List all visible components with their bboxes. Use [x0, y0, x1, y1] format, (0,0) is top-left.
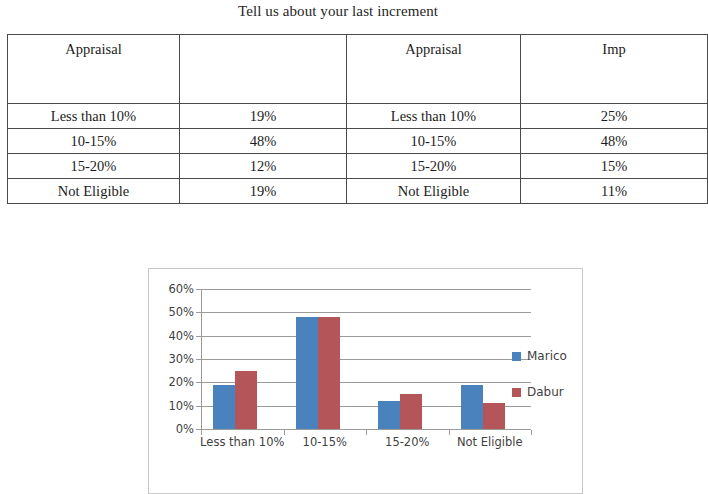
bar-dabur-0[interactable]: [235, 371, 257, 429]
table-cell: Not Eligible: [8, 179, 180, 204]
x-axis-category-label: 15-20%: [362, 436, 452, 450]
table-row: Not Eligible19%Not Eligible11%: [8, 179, 708, 204]
table-cell: 15%: [521, 154, 708, 179]
table-cell: Not Eligible: [347, 179, 521, 204]
bar-marico-1[interactable]: [296, 317, 318, 429]
y-axis-tick: [196, 312, 201, 313]
bar-marico-2[interactable]: [378, 401, 400, 429]
legend-swatch-icon: [512, 352, 521, 361]
y-axis-tick-label: 30%: [150, 352, 194, 366]
table-header-cell: Appraisal: [347, 35, 521, 104]
x-axis-tick: [366, 430, 367, 435]
table-cell: 19%: [180, 104, 347, 129]
table-cell: 15-20%: [347, 154, 521, 179]
table-cell: 10-15%: [8, 129, 180, 154]
y-axis-tick-label: 60%: [150, 282, 194, 296]
legend-swatch-icon: [512, 388, 521, 397]
y-axis-labels: 0%10%20%30%40%50%60%: [149, 289, 194, 430]
bar-group: [201, 289, 284, 429]
table-row: Less than 10%19%Less than 10%25%: [8, 104, 708, 129]
y-axis-tick: [196, 336, 201, 337]
survey-results-table: AppraisalAppraisalImpLess than 10%19%Les…: [7, 34, 708, 204]
bar-dabur-3[interactable]: [483, 403, 505, 429]
page-title: Tell us about your last increment: [0, 3, 676, 20]
table-body: AppraisalAppraisalImpLess than 10%19%Les…: [8, 35, 708, 204]
legend-label: Marico: [527, 349, 567, 363]
table-header-cell: Appraisal: [8, 35, 180, 104]
bar-group: [366, 289, 449, 429]
bar-group: [284, 289, 367, 429]
y-axis-tick-label: 20%: [150, 375, 194, 389]
x-axis-tick: [531, 430, 532, 435]
x-axis-category-label: Less than 10%: [197, 436, 287, 450]
table-row: 15-20%12%15-20%15%: [8, 154, 708, 179]
y-axis-tick-label: 40%: [150, 329, 194, 343]
x-axis-category-label: 10-15%: [280, 436, 370, 450]
bar-dabur-1[interactable]: [318, 317, 340, 429]
y-axis-tick-label: 0%: [150, 422, 194, 436]
legend-label: Dabur: [527, 385, 564, 399]
x-axis-tick: [284, 430, 285, 435]
chart-legend: MaricoDabur: [512, 347, 582, 419]
table-cell: Less than 10%: [347, 104, 521, 129]
table-header-row: AppraisalAppraisalImp: [8, 35, 708, 104]
table-cell: 19%: [180, 179, 347, 204]
y-axis-tick: [196, 289, 201, 290]
bar-dabur-2[interactable]: [400, 394, 422, 429]
table-cell: 12%: [180, 154, 347, 179]
table-cell: 48%: [521, 129, 708, 154]
table-cell: Less than 10%: [8, 104, 180, 129]
y-axis-tick-label: 10%: [150, 399, 194, 413]
table-header-cell: [180, 35, 347, 104]
table-header-cell: Imp: [521, 35, 708, 104]
increment-bar-chart: 0%10%20%30%40%50%60% MaricoDabur Less th…: [148, 268, 583, 494]
y-axis-tick: [196, 359, 201, 360]
y-axis-tick: [196, 382, 201, 383]
table-row: 10-15%48%10-15%48%: [8, 129, 708, 154]
table-cell: 11%: [521, 179, 708, 204]
y-axis-tick-label: 50%: [150, 305, 194, 319]
legend-entry-dabur[interactable]: Dabur: [512, 383, 582, 401]
plot-area: [201, 289, 531, 429]
table-cell: 48%: [180, 129, 347, 154]
y-axis-tick: [196, 406, 201, 407]
x-axis-tick: [449, 430, 450, 435]
x-axis-category-label: Not Eligible: [445, 436, 535, 450]
table-cell: 10-15%: [347, 129, 521, 154]
bar-marico-3[interactable]: [461, 385, 483, 429]
legend-entry-marico[interactable]: Marico: [512, 347, 582, 365]
table-cell: 15-20%: [8, 154, 180, 179]
table-cell: 25%: [521, 104, 708, 129]
bar-marico-0[interactable]: [213, 385, 235, 429]
